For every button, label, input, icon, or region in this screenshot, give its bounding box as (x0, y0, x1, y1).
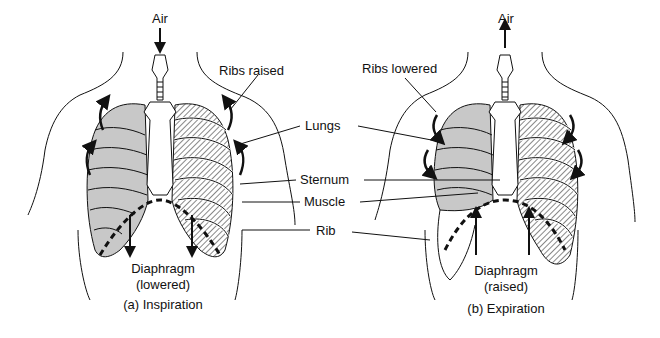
diaphragm-state-a: (lowered) (136, 278, 190, 292)
air-label-expiration: Air (498, 12, 514, 26)
diaphragm-label-b: Diaphragm (474, 264, 538, 278)
ribs-lowered-label: Ribs lowered (362, 62, 437, 76)
caption-inspiration: (a) Inspiration (123, 298, 202, 312)
trachea (152, 55, 168, 100)
ribs-raised-label: Ribs raised (219, 64, 284, 78)
lungs-label: Lungs (305, 119, 340, 133)
sternum-label: Sternum (300, 173, 349, 187)
rib-label: Rib (316, 224, 336, 238)
caption-expiration: (b) Expiration (467, 302, 544, 316)
diaphragm-state-b: (raised) (484, 280, 528, 294)
sternum (144, 102, 176, 195)
muscle-label: Muscle (304, 195, 345, 209)
lung-left (87, 104, 148, 257)
diagram-artwork (0, 0, 660, 338)
sternum (489, 102, 521, 195)
air-label-inspiration: Air (152, 12, 168, 26)
lung-left (434, 104, 493, 211)
breathing-diagram: Air Ribs raised Diaphragm (lowered) (a) … (0, 0, 660, 338)
diaphragm-label-a: Diaphragm (131, 262, 195, 276)
